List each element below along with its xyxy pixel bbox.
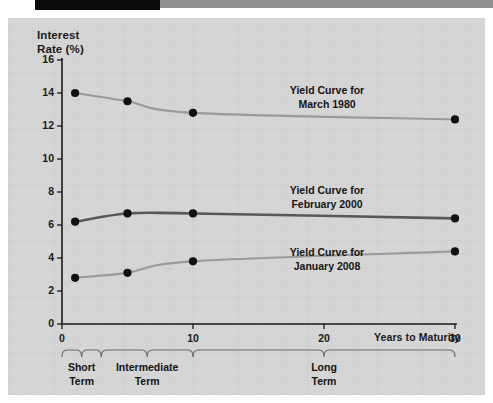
bracket-label-line2: Term (97, 375, 197, 389)
y-tick-label-4: 4 (22, 251, 54, 263)
series-line-0 (75, 93, 455, 119)
series-label-line1: Yield Curve for (272, 246, 382, 260)
bracket-label-long-term: Long Term (274, 361, 374, 388)
data-point-0-0 (71, 89, 79, 97)
data-point-1-2 (189, 209, 197, 217)
series-label-march-1980: Yield Curve for March 1980 (272, 84, 382, 111)
y-tick-label-14: 14 (22, 86, 54, 98)
y-tick-label-6: 6 (22, 218, 54, 230)
series-label-line1: Yield Curve for (272, 84, 382, 98)
data-point-2-0 (71, 274, 79, 282)
maturity-bracket-0 (62, 350, 101, 357)
series-label-line2: March 1980 (272, 98, 382, 112)
series-label-january-2008: Yield Curve for January 2008 (272, 246, 382, 273)
figure-page: Interest Rate (%) Years to Maturity 0246… (0, 0, 493, 403)
bracket-label-line1: Intermediate (97, 361, 197, 375)
bracket-label-line1: Long (274, 361, 374, 375)
data-point-2-2 (189, 257, 197, 265)
data-point-2-3 (451, 247, 459, 255)
y-axis-title: Interest Rate (%) (37, 28, 84, 56)
series-label-line2: January 2008 (272, 260, 382, 274)
chart-stage: Interest Rate (%) Years to Maturity 0246… (0, 0, 493, 403)
x-tick-label-30: 30 (435, 332, 475, 344)
series-line-1 (75, 213, 455, 222)
y-axis-title-line1: Interest (37, 28, 84, 42)
data-point-1-0 (71, 218, 79, 226)
data-point-1-1 (123, 209, 131, 217)
series-label-line2: February 2000 (272, 198, 382, 212)
data-point-2-1 (123, 269, 131, 277)
series-line-2 (75, 251, 455, 277)
x-tick-label-10: 10 (173, 332, 213, 344)
y-tick-label-8: 8 (22, 185, 54, 197)
data-point-0-2 (189, 109, 197, 117)
bracket-label-intermediate-term: Intermediate Term (97, 361, 197, 388)
x-tick-label-20: 20 (304, 332, 344, 344)
x-tick-label-0: 0 (42, 332, 82, 344)
data-point-0-1 (123, 97, 131, 105)
series-label-february-2000: Yield Curve for February 2000 (272, 184, 382, 211)
series-label-line1: Yield Curve for (272, 184, 382, 198)
y-tick-label-0: 0 (22, 317, 54, 329)
y-tick-label-2: 2 (22, 284, 54, 296)
maturity-bracket-2 (193, 350, 455, 357)
y-tick-label-12: 12 (22, 119, 54, 131)
y-tick-label-10: 10 (22, 152, 54, 164)
maturity-bracket-1 (101, 350, 193, 357)
data-point-1-3 (451, 214, 459, 222)
y-tick-label-16: 16 (22, 53, 54, 65)
bracket-label-line2: Term (274, 375, 374, 389)
data-point-0-3 (451, 115, 459, 123)
